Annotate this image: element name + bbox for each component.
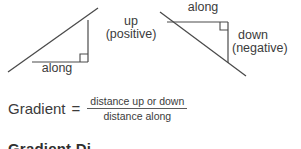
- gradient-diagram-figure: up (positive) along along down (negative…: [0, 0, 301, 149]
- left-right-angle-marker: [80, 54, 88, 62]
- formula-fraction: distance up or down distance along: [87, 95, 187, 122]
- gradient-formula: Gradient = distance up or down distance …: [8, 95, 187, 122]
- formula-equals-sign: =: [72, 100, 81, 117]
- formula-term: Gradient: [8, 100, 66, 117]
- fraction-denominator: distance along: [100, 109, 174, 122]
- label-along-left: along: [30, 62, 84, 76]
- fraction-numerator: distance up or down: [87, 95, 187, 108]
- cutoff-heading: Gradient Di: [8, 140, 91, 149]
- label-positive: (positive): [96, 28, 166, 42]
- right-right-angle-marker: [220, 22, 228, 30]
- label-negative: (negative): [232, 42, 298, 56]
- label-along-right: along: [176, 1, 230, 15]
